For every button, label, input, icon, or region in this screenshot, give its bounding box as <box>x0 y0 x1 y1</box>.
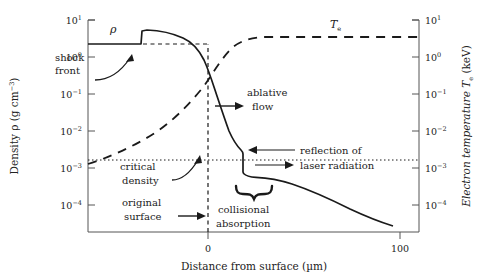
collisional-label-line1: collisional <box>218 204 269 215</box>
shock-front-label-line2: front <box>55 65 80 76</box>
x-axis-title: Distance from surface (µm) <box>181 260 327 272</box>
y-tick-exponent: 1 <box>78 14 82 22</box>
density-curve-label: ρ <box>109 23 117 36</box>
figure-background <box>0 0 484 278</box>
left-axis-title: Density ρ (g cm−3) <box>8 78 20 175</box>
critical-density-label-line2: density <box>122 175 159 186</box>
ablative-flow-label-line1: ablative <box>247 87 287 98</box>
reflection-label-line2: laser radiation <box>300 160 375 171</box>
original-surface-label-line2: surface <box>124 211 162 222</box>
ablative-flow-label-line2: flow <box>252 101 274 112</box>
x-tick-label-0: 0 <box>205 243 211 254</box>
shock-front-label-line1: shock <box>55 52 85 63</box>
collisional-label-line2: absorption <box>216 218 271 229</box>
x-tick-label-100: 100 <box>391 243 409 254</box>
original-surface-label-line1: original <box>122 197 161 208</box>
laser-plasma-density-temperature-figure: 101 100 10−1 10−2 10−3 10−4 101 100 10−1… <box>0 0 484 278</box>
critical-density-label-line1: critical <box>120 161 156 172</box>
reflection-label-line1: reflection of <box>300 145 363 156</box>
y-tick-mantissa: 10 <box>66 15 78 26</box>
